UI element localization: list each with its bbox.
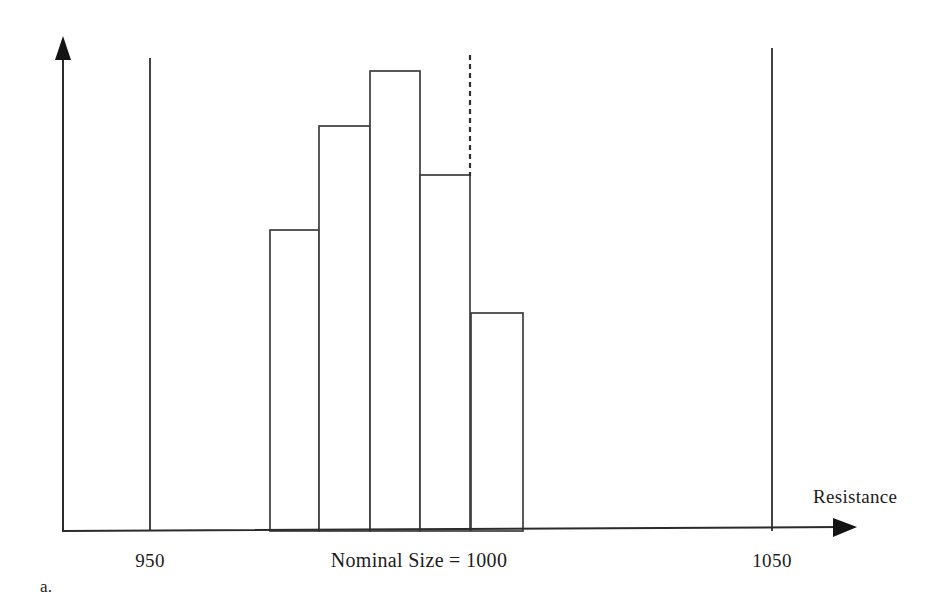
histogram-plot [0,0,942,610]
x-axis-title: Resistance [813,487,897,506]
histogram-bar [370,71,420,531]
y-axis-arrow-icon [55,36,71,60]
x-tick-label-950: 950 [135,551,165,570]
x-axis-arrow-icon [833,518,857,537]
nominal-size-label: Nominal Size = 1000 [331,550,507,570]
histogram-bar [270,230,319,531]
histogram-bar [420,175,470,531]
figure-root: 950 Nominal Size = 1000 1050 Resistance … [0,0,942,610]
histogram-bar [319,126,370,531]
panel-caption: a. [40,578,52,595]
x-tick-label-1050: 1050 [752,551,792,570]
histogram-bar [471,313,523,531]
